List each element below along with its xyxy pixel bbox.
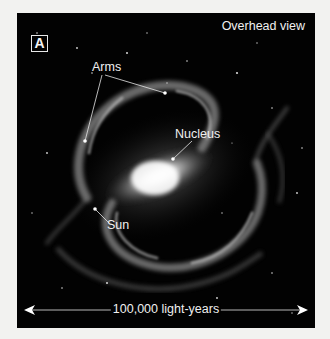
panel-label-box: A bbox=[31, 35, 48, 52]
view-title: Overhead view bbox=[222, 20, 305, 33]
sun-label: Sun bbox=[107, 219, 129, 232]
nucleus-label: Nucleus bbox=[175, 128, 220, 141]
galaxy-image-panel: A Overhead view Arms Nucleus Sun 100,000… bbox=[17, 13, 315, 328]
spiral-galaxy-illustration bbox=[17, 13, 315, 328]
arms-label: Arms bbox=[92, 61, 121, 74]
scale-bar-label: 100,000 light-years bbox=[111, 303, 221, 316]
